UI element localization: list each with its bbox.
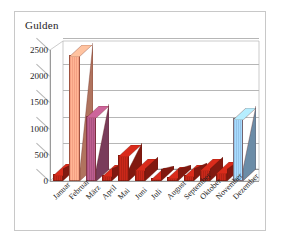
bar-mai[interactable] — [118, 155, 128, 181]
chart-frame: Gulden 05001000150020002500 JanuarFebrua… — [14, 11, 266, 231]
x-axis-category-labels: JanuarFebruarMärzAprilMaiJuniJuliAugustS… — [15, 193, 267, 244]
bar-januar[interactable] — [53, 174, 63, 181]
bar-front-face — [118, 155, 128, 181]
plot-area: 05001000150020002500 — [15, 38, 267, 193]
bar-juli[interactable] — [151, 178, 161, 181]
bar-august[interactable] — [167, 177, 177, 181]
chart-axis-title: Gulden — [25, 19, 59, 31]
bar-front-face — [86, 116, 96, 182]
bar-juni[interactable] — [135, 169, 145, 181]
bar-side-face — [243, 106, 256, 181]
bar-front-face — [69, 55, 79, 181]
bar-april[interactable] — [102, 175, 112, 181]
bar-mrz[interactable] — [86, 116, 96, 182]
bar-februar[interactable] — [69, 55, 79, 181]
bar-september[interactable] — [184, 175, 194, 181]
bars-layer — [15, 38, 267, 193]
